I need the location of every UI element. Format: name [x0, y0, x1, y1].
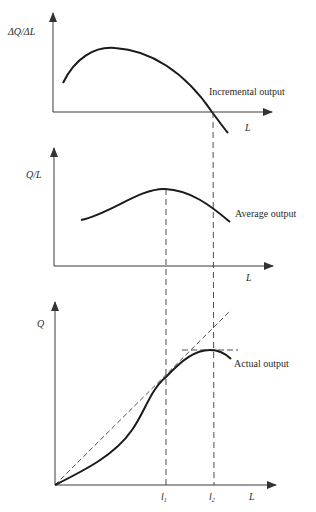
curve-label: Average output: [235, 208, 296, 219]
incremental-output-curve: [63, 48, 228, 133]
x-axis-label: L: [248, 491, 255, 502]
incremental-output-panel: ΔQ/ΔL L Incremental output: [7, 13, 285, 133]
y-axis-label: Q: [37, 318, 45, 329]
average-output-panel: Q/L L Average output: [26, 148, 296, 283]
x-axis-label: L: [245, 272, 252, 283]
average-output-curve: [81, 189, 230, 222]
tangent-ray-from-origin: [55, 310, 231, 485]
curve-label: Incremental output: [209, 86, 285, 97]
y-axis-label: ΔQ/ΔL: [7, 26, 36, 37]
production-diagram: ΔQ/ΔL L Incremental output Q/L L Average…: [0, 0, 316, 512]
tick-label-l1: l1: [161, 491, 167, 503]
actual-output-curve: [55, 350, 231, 485]
x-axis-label: L: [244, 122, 251, 133]
curve-label: Actual output: [234, 358, 289, 369]
tick-label-l2: l2: [209, 491, 215, 503]
y-axis-label: Q/L: [26, 169, 42, 180]
actual-output-panel: Q L Actual output l1 l2: [37, 302, 289, 503]
guide-line-l2: [213, 112, 214, 485]
